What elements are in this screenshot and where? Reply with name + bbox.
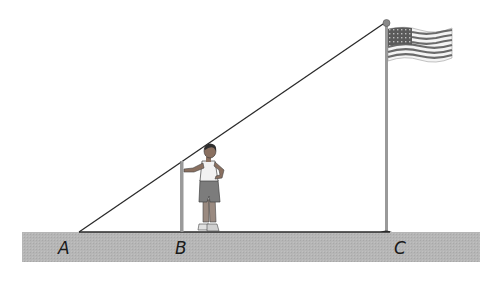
ground-strip	[22, 232, 480, 262]
point-label-b: B	[175, 240, 187, 257]
diagram-canvas	[0, 0, 486, 281]
boy-figure	[184, 144, 224, 231]
sight-line	[79, 22, 386, 232]
point-label-c: C	[394, 240, 406, 257]
american-flag	[388, 27, 452, 62]
point-label-a: A	[58, 240, 70, 257]
pole-b	[181, 161, 184, 232]
